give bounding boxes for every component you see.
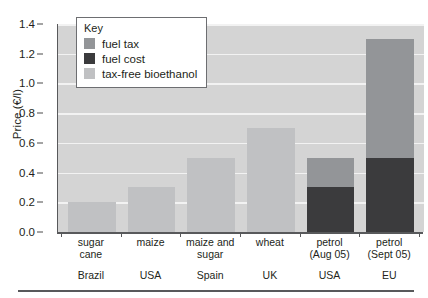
legend-swatch-tax xyxy=(84,38,95,49)
bar-segment-tax-free-bioethanol xyxy=(187,158,235,232)
y-tick-label: 0.4 xyxy=(19,167,35,179)
bar-segment-fuel-cost xyxy=(307,187,355,232)
bar xyxy=(247,128,295,232)
category-line-1: maize xyxy=(137,236,165,248)
bar xyxy=(68,202,116,232)
y-tick-mark xyxy=(37,53,43,54)
y-tick-mark xyxy=(37,113,43,114)
category-line-1: petrol xyxy=(376,236,402,248)
y-tick-mark xyxy=(37,142,43,143)
bar-segment-fuel-tax xyxy=(366,39,414,158)
category-line-2: cane xyxy=(61,248,121,260)
legend-label: fuel cost xyxy=(102,53,145,65)
bar-segment-fuel-tax xyxy=(307,158,355,188)
x-axis-category-label: petrol(Sept 05)EU xyxy=(359,236,419,281)
bar-segment-tax-free-bioethanol xyxy=(128,187,176,232)
category-country: Spain xyxy=(180,269,240,281)
bar-segment-tax-free-bioethanol xyxy=(247,128,295,232)
y-tick-mark xyxy=(37,83,43,84)
y-tick-label: 1.4 xyxy=(19,18,35,30)
category-line-2: (Aug 05) xyxy=(300,248,360,260)
bottom-rule xyxy=(18,290,414,292)
y-axis-ticks: 0.00.20.40.60.81.01.21.4 xyxy=(0,0,45,298)
bar-group xyxy=(360,24,420,232)
y-tick-label: 0.8 xyxy=(19,107,35,119)
category-country: USA xyxy=(300,269,360,281)
category-country: USA xyxy=(121,269,181,281)
x-axis-category-label: wheat UK xyxy=(240,236,300,281)
chart-legend: Key fuel taxfuel costtax-free bioethanol xyxy=(76,17,207,88)
category-line-2 xyxy=(121,248,181,260)
x-axis-category-label: petrol(Aug 05)USA xyxy=(300,236,360,281)
category-line-2 xyxy=(240,248,300,260)
y-tick-label: 1.2 xyxy=(19,48,35,60)
category-line-2: (Sept 05) xyxy=(359,248,419,260)
legend-rows: fuel taxfuel costtax-free bioethanol xyxy=(84,36,197,81)
y-tick-label: 0.2 xyxy=(19,196,35,208)
category-country: EU xyxy=(359,269,419,281)
legend-item: fuel tax xyxy=(84,36,197,51)
bar-chart-figure: Price (€/l) 0.00.20.40.60.81.01.21.4 sug… xyxy=(0,0,428,298)
y-tick-mark xyxy=(37,172,43,173)
legend-label: tax-free bioethanol xyxy=(102,68,197,80)
legend-swatch-cost xyxy=(84,53,95,64)
bar-segment-fuel-cost xyxy=(366,158,414,232)
y-tick-label: 0.6 xyxy=(19,137,35,149)
bar xyxy=(128,187,176,232)
category-line-1: wheat xyxy=(256,236,284,248)
category-line-2: sugar xyxy=(180,248,240,260)
category-country: Brazil xyxy=(61,269,121,281)
bar xyxy=(307,158,355,232)
bar xyxy=(187,158,235,232)
y-tick-label: 1.0 xyxy=(19,77,35,89)
y-tick-mark xyxy=(37,232,43,233)
y-tick-mark xyxy=(37,24,43,25)
category-line-1: maize and xyxy=(186,236,234,248)
legend-swatch-bio xyxy=(84,68,95,79)
bar-group xyxy=(301,24,361,232)
legend-item: fuel cost xyxy=(84,51,197,66)
x-axis-category-label: sugarcaneBrazil xyxy=(61,236,121,281)
x-axis-labels: sugarcaneBrazilmaize USAmaize andsugarSp… xyxy=(57,236,423,281)
legend-title: Key xyxy=(84,22,197,34)
bar-segment-tax-free-bioethanol xyxy=(68,202,116,232)
y-tick-mark xyxy=(37,202,43,203)
category-line-1: petrol xyxy=(316,236,342,248)
category-line-1: sugar xyxy=(78,236,104,248)
bar xyxy=(366,39,414,232)
category-country: UK xyxy=(240,269,300,281)
legend-item: tax-free bioethanol xyxy=(84,66,197,81)
y-tick-label: 0.0 xyxy=(19,226,35,238)
x-axis-category-label: maize USA xyxy=(121,236,181,281)
x-axis-category-label: maize andsugarSpain xyxy=(180,236,240,281)
legend-label: fuel tax xyxy=(102,38,139,50)
bar-group xyxy=(241,24,301,232)
